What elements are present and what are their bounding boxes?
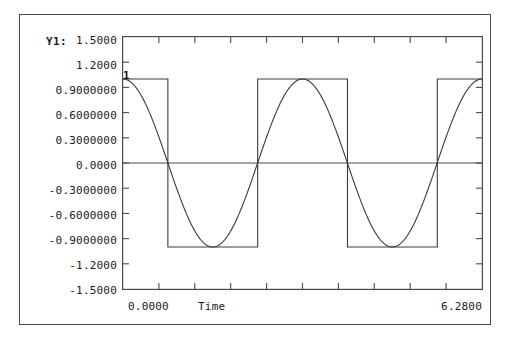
plot-canvas — [122, 36, 483, 290]
x-axis-tick-labels: 0.0000 Time 6.2800 — [122, 300, 484, 318]
amplitude-marker-label: 1 — [123, 70, 130, 81]
x-min-tick-label: 0.0000 — [128, 300, 169, 313]
y-tick-label: 0.0000 — [76, 159, 117, 172]
y-tick-label: -0.3000000 — [49, 184, 117, 197]
y-tick-label: -1.2000 — [69, 259, 117, 272]
y-tick-label: -0.6000000 — [49, 209, 117, 222]
x-max-tick-label: 6.2800 — [441, 300, 482, 313]
y-tick-label: -1.5000 — [69, 284, 117, 297]
plot-area — [122, 36, 483, 290]
y-tick-label: 0.6000000 — [56, 109, 117, 122]
y-tick-label: 1.2000 — [76, 59, 117, 72]
plot-screen: Y1: Wal(4,theta),Cos(2*omega*theta). 1.5… — [0, 0, 508, 344]
y-axis-tick-labels: 1.5000 1.2000 0.9000000 0.6000000 0.3000… — [20, 30, 117, 300]
y-tick-label: -0.9000000 — [49, 234, 117, 247]
y-tick-label: 0.9000000 — [56, 84, 117, 97]
x-axis-title: Time — [198, 300, 225, 313]
y-tick-label: 1.5000 — [76, 34, 117, 47]
y-tick-label: 0.3000000 — [56, 134, 117, 147]
